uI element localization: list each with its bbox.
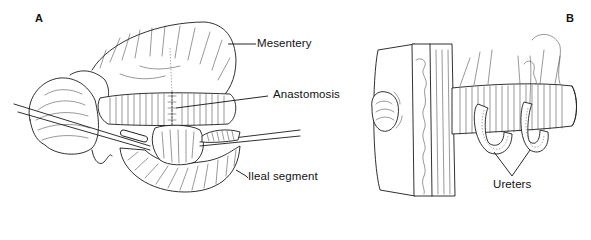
label-ileal-segment: Ileal segment xyxy=(248,170,318,182)
panel-b-illustration xyxy=(372,34,577,196)
label-anastomosis: Anastomosis xyxy=(273,88,340,100)
label-ureters: Ureters xyxy=(493,178,531,190)
label-mesentery: Mesentery xyxy=(257,37,312,49)
